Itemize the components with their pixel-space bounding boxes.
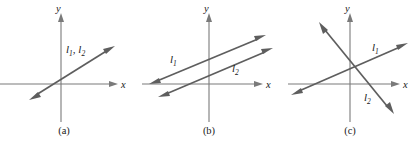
y-axis-label: y (203, 3, 209, 14)
line-label-l2: l2 (364, 91, 371, 106)
y-axis-arrowhead (206, 13, 212, 22)
line-l1-arrowhead-start (149, 78, 161, 84)
line-l1-arrowhead-end (396, 43, 408, 50)
line-l1-arrowhead-start (291, 88, 303, 95)
y-axis-label: y (344, 3, 350, 14)
x-axis-arrowhead (109, 81, 118, 87)
panel-c: x y l1 l2 (c) (280, 0, 420, 141)
panel-a: x y l1, l2 (a) (0, 0, 140, 141)
x-axis-label: x (265, 79, 271, 90)
y-axis-arrowhead (58, 13, 64, 22)
x-axis-label: x (402, 79, 408, 90)
panel-b: x y l1 l2 (b) (140, 0, 280, 141)
line-l1-arrowhead-end (254, 35, 266, 41)
panel-caption-a: (a) (58, 125, 70, 137)
geometry-figure-three-panels: x y l1, l2 (a) x y l1 l2 (0, 0, 420, 141)
x-axis-arrowhead (391, 81, 400, 87)
line-l2-arrowhead-start (158, 91, 170, 97)
y-axis-arrowhead (347, 13, 353, 22)
panel-caption-b: (b) (203, 125, 216, 137)
line-l2-decreasing (325, 30, 387, 106)
x-axis-label: x (120, 79, 126, 90)
line-label-l1: l1 (372, 41, 379, 56)
x-axis-arrowhead (254, 81, 263, 87)
line-label-l1-l2: l1, l2 (66, 43, 85, 58)
line-l2-parallel (166, 52, 265, 94)
panel-caption-c: (c) (344, 125, 356, 137)
line-l2-arrowhead-end (261, 48, 273, 54)
line-label-l1: l1 (170, 53, 177, 68)
y-axis-label: y (55, 3, 61, 14)
line-l2-arrowhead-end (385, 102, 394, 114)
